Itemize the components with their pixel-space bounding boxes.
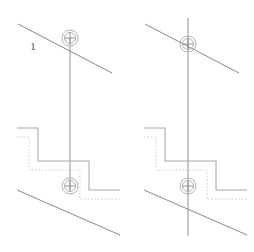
panel-index-label: 1 (30, 40, 36, 52)
drawing-svg: 1 (0, 0, 254, 252)
top-circle-marker[interactable] (62, 30, 78, 46)
left-view: 1 (17, 24, 120, 235)
bottom-circle-marker[interactable] (180, 178, 196, 194)
upper-diagonal-line (145, 24, 239, 73)
bottom-circle-marker[interactable] (62, 178, 78, 194)
lower-diagonal-line (17, 190, 120, 235)
top-circle-marker[interactable] (180, 36, 196, 52)
drawing-canvas: 1 (0, 0, 254, 252)
lower-diagonal-line (144, 190, 247, 235)
step-solid-polyline (144, 128, 247, 190)
panels-group: 1 (17, 18, 247, 236)
right-view (144, 18, 247, 236)
